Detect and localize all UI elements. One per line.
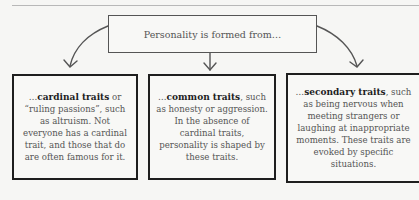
common-traits-box: …common traits, such as honesty or aggre… <box>148 74 276 180</box>
common-traits-term: common traits <box>167 92 241 102</box>
cardinal-traits-description: …cardinal traits or “ruling passions”, s… <box>20 91 130 163</box>
secondary-traits-term: secondary traits <box>304 87 385 97</box>
arrow-to-secondary <box>317 26 357 66</box>
arrow-to-cardinal <box>70 26 108 66</box>
common-traits-description: …common traits, such as honesty or aggre… <box>156 91 268 163</box>
root-node: Personality is formed from… <box>108 15 317 53</box>
secondary-traits-box: …secondary traits, such as being nervous… <box>286 73 419 183</box>
cardinal-traits-term: cardinal traits <box>37 92 109 102</box>
cardinal-traits-box: …cardinal traits or “ruling passions”, s… <box>12 74 138 180</box>
secondary-traits-description: …secondary traits, such as being nervous… <box>294 86 413 170</box>
root-label: Personality is formed from… <box>144 29 282 40</box>
